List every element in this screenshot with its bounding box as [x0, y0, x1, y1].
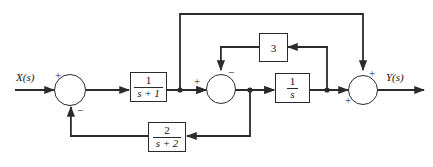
block-1-over-s-denominator: s: [287, 89, 299, 101]
summer-output-top-plus-sign: +: [369, 68, 375, 79]
block-2-over-s-plus-2-label: 2 s + 2: [153, 125, 182, 149]
block-gain-3: 3: [259, 33, 288, 62]
block-1-over-s-plus-1-numerator: 1: [134, 75, 163, 88]
block-1-over-s-numerator: 1: [287, 76, 299, 89]
block-1-over-s-plus-1-label: 1 s + 1: [134, 75, 163, 99]
block-1-over-s: 1 s: [275, 73, 310, 103]
summer-inner-minus-sign: −: [228, 67, 234, 78]
junction-dot-after-block-1-over-s: [324, 87, 329, 92]
block-2-over-s-plus-2-denominator: s + 2: [153, 138, 182, 150]
block-1-over-s-plus-1-denominator: s + 1: [134, 88, 163, 100]
junction-dot-after-summer2: [247, 87, 252, 92]
summer-inner-plus-sign: +: [194, 76, 200, 87]
junction-dot-after-block1: [177, 87, 182, 92]
output-signal-label: Y(s): [386, 72, 404, 83]
block-2-over-s-plus-2: 2 s + 2: [148, 122, 186, 152]
summer-output: [348, 75, 378, 105]
summer-inner: [206, 74, 236, 104]
block-1-over-s-plus-1: 1 s + 1: [130, 72, 167, 102]
summer-input-minus-sign: −: [77, 105, 83, 116]
block-diagram: 1 s + 1 1 s 3 2 s + 2 X(s) Y(s) + − + − …: [0, 0, 433, 167]
input-signal-label: X(s): [16, 72, 34, 83]
summer-input-plus-sign: +: [55, 70, 61, 81]
block-gain-3-label: 3: [271, 42, 277, 54]
block-1-over-s-label: 1 s: [287, 76, 299, 100]
summer-output-left-plus-sign: +: [345, 95, 351, 106]
block-2-over-s-plus-2-numerator: 2: [153, 125, 182, 138]
